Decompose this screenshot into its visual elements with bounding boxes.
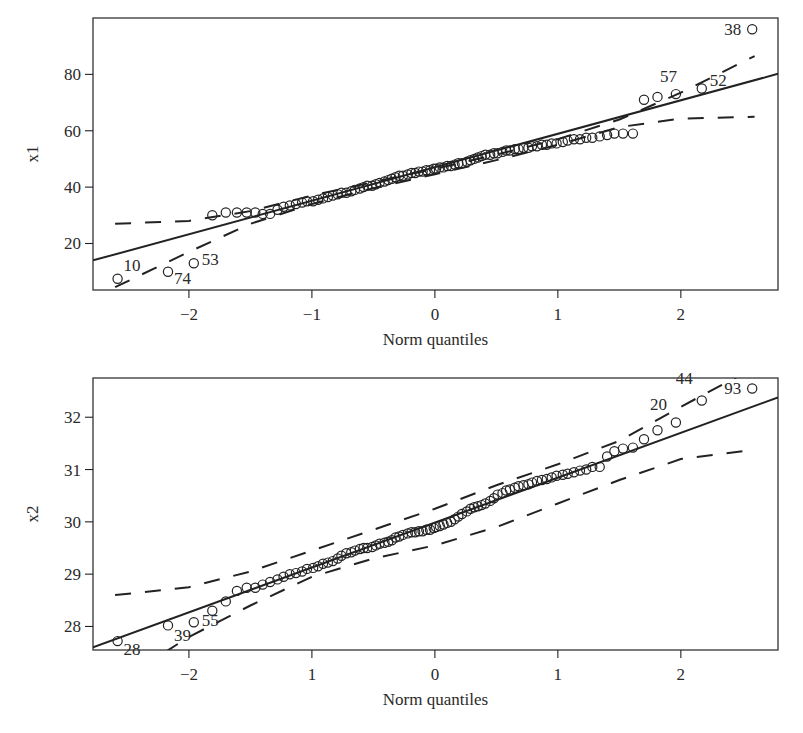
x-tick-label: 0 — [431, 665, 440, 684]
envelope-lower-band — [164, 450, 754, 653]
x-tick-label: −2 — [180, 665, 198, 684]
point-label: 39 — [174, 626, 191, 645]
data-point — [697, 84, 706, 93]
point-label: 55 — [202, 611, 219, 630]
point-label: 10 — [124, 256, 141, 275]
data-point — [189, 259, 198, 268]
y-tick-label: 80 — [64, 65, 81, 84]
y-tick-label: 31 — [64, 461, 81, 480]
data-point — [748, 384, 757, 393]
data-point — [610, 447, 619, 456]
y-tick-label: 29 — [64, 565, 81, 584]
data-point — [653, 426, 662, 435]
x-tick-label: 2 — [677, 665, 686, 684]
point-label: 44 — [676, 369, 694, 388]
qq-plot-x2-panel: −210122829303132283955204493 Norm quanti… — [23, 368, 778, 710]
point-label: 38 — [724, 20, 741, 39]
x-tick-label: 1 — [308, 665, 317, 684]
y-tick-label: 20 — [64, 234, 81, 253]
plot-frame — [93, 18, 778, 290]
plot-area-x2: −210122829303132283955204493 — [64, 368, 778, 685]
point-label: 53 — [202, 250, 219, 269]
x-tick-label: 0 — [431, 305, 440, 324]
envelope-upper-band — [115, 56, 755, 224]
data-point — [628, 129, 637, 138]
data-point — [653, 92, 662, 101]
data-point — [697, 396, 706, 405]
x-axis-label-x2: Norm quantiles — [383, 690, 488, 709]
x-tick-label: 1 — [554, 665, 563, 684]
point-label: 28 — [124, 640, 141, 659]
y-tick-label: 60 — [64, 122, 81, 141]
x-tick-label: −1 — [303, 305, 321, 324]
plot-area-x1: −2−101220406080107453575238 — [64, 18, 778, 324]
x-tick-label: 1 — [554, 305, 563, 324]
y-tick-label: 40 — [64, 178, 81, 197]
x-tick-label: 2 — [677, 305, 686, 324]
qq-plot-x1-panel: −2−101220406080107453575238 Norm quantil… — [23, 18, 778, 349]
x-axis-label-x1: Norm quantiles — [383, 330, 488, 349]
qq-plot-figure: −2−101220406080107453575238 Norm quantil… — [0, 0, 803, 733]
data-point — [639, 435, 648, 444]
x-tick-label: −2 — [180, 305, 198, 324]
y-axis-label-x2: x2 — [23, 506, 42, 523]
point-label: 57 — [660, 67, 678, 86]
data-point — [221, 208, 230, 217]
y-tick-label: 28 — [64, 617, 81, 636]
point-label: 74 — [174, 269, 192, 288]
data-point — [163, 621, 172, 630]
data-point — [208, 211, 217, 220]
y-tick-label: 30 — [64, 513, 81, 532]
data-point — [639, 95, 648, 104]
data-point — [113, 274, 122, 283]
y-tick-label: 32 — [64, 408, 81, 427]
data-point — [671, 418, 680, 427]
point-label: 20 — [650, 395, 667, 414]
data-point — [163, 267, 172, 276]
data-point — [748, 25, 757, 34]
point-label: 52 — [710, 71, 727, 90]
y-axis-label-x1: x1 — [23, 146, 42, 163]
point-label: 93 — [724, 379, 741, 398]
data-point — [618, 129, 627, 138]
data-point — [618, 444, 627, 453]
